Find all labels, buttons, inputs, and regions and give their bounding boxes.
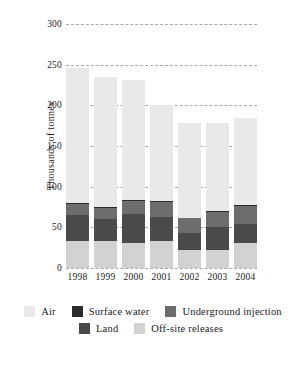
legend-swatch	[165, 306, 176, 317]
x-axis-labels: 1998199920002001200220032004	[66, 272, 257, 282]
legend-label: Air	[41, 306, 56, 317]
bar-segment	[94, 208, 117, 219]
y-tick-label-100: 100	[47, 182, 62, 192]
bar-segment	[234, 224, 257, 243]
bar-group	[66, 24, 257, 268]
y-tick-label-250: 250	[47, 60, 62, 70]
legend-row: AirSurface waterUnderground injection	[0, 306, 302, 317]
bar-segment	[122, 243, 145, 268]
bar-column-1998	[66, 24, 89, 268]
legend-label: Surface water	[89, 306, 150, 317]
y-axis-ticks: 050100150200250300	[0, 24, 62, 268]
bar-segment	[122, 201, 145, 215]
bar-segment	[206, 227, 229, 250]
x-tick-label-1998: 1998	[66, 272, 89, 282]
legend-swatch	[72, 306, 83, 317]
bar-segment	[94, 77, 117, 207]
bar-segment	[206, 212, 229, 227]
x-tick-label-1999: 1999	[94, 272, 117, 282]
bar-segment	[234, 118, 257, 206]
bar-segment	[122, 214, 145, 242]
y-tick-label-150: 150	[47, 141, 62, 151]
y-tick-label-50: 50	[52, 222, 62, 232]
x-tick-label-2003: 2003	[206, 272, 229, 282]
bar-segment	[178, 250, 201, 268]
bar-segment	[178, 123, 201, 217]
bar-segment	[66, 215, 89, 241]
y-tick-label-300: 300	[47, 19, 62, 29]
y-tick-label-200: 200	[47, 100, 62, 110]
x-tick-label-2002: 2002	[178, 272, 201, 282]
bar-segment	[66, 241, 89, 268]
legend-item-surface-water: Surface water	[72, 306, 150, 317]
bar-segment	[150, 105, 173, 201]
legend-row: LandOff-site releases	[0, 323, 302, 334]
bar-segment	[94, 219, 117, 241]
legend-label: Off-site releases	[151, 323, 223, 334]
bar-segment	[178, 218, 201, 233]
bar-segment	[178, 233, 201, 250]
legend-item-land: Land	[79, 323, 118, 334]
bar-column-2003	[206, 24, 229, 268]
y-tick-label-0: 0	[57, 263, 62, 273]
gridline-0	[66, 268, 257, 269]
bar-column-2001	[150, 24, 173, 268]
x-tick-label-2004: 2004	[234, 272, 257, 282]
bar-segment	[66, 204, 89, 215]
bar-segment	[150, 241, 173, 268]
bar-segment	[206, 250, 229, 268]
bar-segment	[206, 123, 229, 211]
bar-segment	[122, 80, 145, 200]
bar-column-2002	[178, 24, 201, 268]
bar-column-2004	[234, 24, 257, 268]
legend-item-underground-injection: Underground injection	[165, 306, 281, 317]
bar-segment	[150, 202, 173, 217]
legend-swatch	[134, 323, 145, 334]
chart-legend: AirSurface waterUnderground injectionLan…	[0, 306, 302, 340]
legend-label: Underground injection	[182, 306, 281, 317]
bar-segment	[234, 243, 257, 268]
bar-segment	[94, 241, 117, 268]
legend-label: Land	[96, 323, 118, 334]
x-tick-label-2001: 2001	[150, 272, 173, 282]
bar-segment	[66, 68, 89, 203]
legend-swatch	[79, 323, 90, 334]
bar-column-1999	[94, 24, 117, 268]
plot-area	[66, 24, 257, 268]
bar-segment	[150, 217, 173, 241]
stacked-bar-chart: Thousands of tonnes 050100150200250300 1…	[0, 0, 302, 368]
legend-item-air: Air	[24, 306, 56, 317]
bar-segment	[234, 206, 257, 224]
bar-column-2000	[122, 24, 145, 268]
legend-item-off-site-releases: Off-site releases	[134, 323, 223, 334]
legend-swatch	[24, 306, 35, 317]
x-tick-label-2000: 2000	[122, 272, 145, 282]
